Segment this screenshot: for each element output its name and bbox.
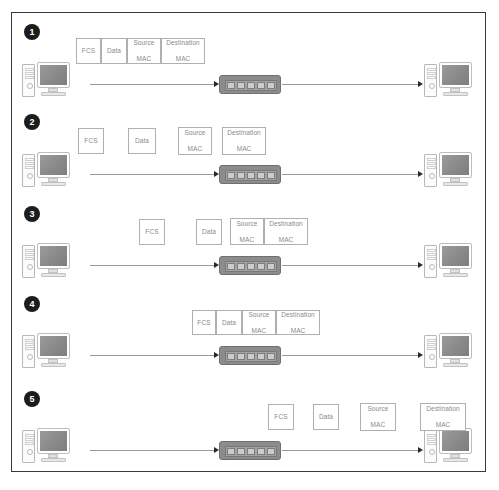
pc-power-button-icon bbox=[429, 354, 435, 360]
wire-switch-to-destination-5 bbox=[282, 450, 420, 451]
pc-screen bbox=[442, 431, 469, 451]
pc-screen bbox=[40, 155, 67, 175]
switch-port bbox=[227, 448, 235, 455]
switch-port bbox=[267, 82, 275, 89]
pc-tower bbox=[424, 430, 437, 463]
frame-field-label: Data bbox=[221, 319, 237, 327]
pc-screen bbox=[442, 65, 469, 85]
frame-field-label-line2: MAC bbox=[132, 55, 155, 63]
arrow-right-icon bbox=[418, 81, 423, 87]
pc-monitor bbox=[37, 62, 70, 88]
switch-port bbox=[227, 353, 235, 360]
frame-field-label-line1: Source bbox=[183, 129, 206, 137]
network-switch-icon-1 bbox=[219, 75, 281, 94]
pc-power-button-icon bbox=[27, 264, 33, 270]
pc-monitor-base bbox=[443, 458, 468, 462]
pc-monitor bbox=[439, 152, 472, 178]
frame-field-destination-mac: DestinationMAC bbox=[264, 218, 308, 245]
network-switch-icon-3 bbox=[219, 256, 281, 275]
frame-field-fcs: FCS bbox=[76, 38, 101, 64]
frame-field-label-line1: Source bbox=[247, 311, 270, 319]
pc-tower bbox=[424, 64, 437, 97]
frame-field-label: Data bbox=[106, 47, 122, 55]
pc-monitor-base bbox=[443, 182, 468, 186]
pc-tower-bay bbox=[25, 434, 34, 437]
pc-tower-bay bbox=[25, 68, 34, 71]
pc-monitor bbox=[439, 243, 472, 269]
pc-tower bbox=[424, 245, 437, 278]
switch-port bbox=[257, 353, 265, 360]
pc-monitor-base bbox=[443, 363, 468, 367]
frame-field-fcs: FCS bbox=[268, 404, 294, 430]
pc-power-button-icon bbox=[429, 264, 435, 270]
pc-monitor bbox=[439, 333, 472, 359]
pc-power-button-icon bbox=[27, 354, 33, 360]
wire-switch-to-destination-1 bbox=[282, 84, 420, 85]
pc-monitor-base bbox=[41, 92, 66, 96]
switch-port bbox=[227, 263, 235, 270]
pc-screen bbox=[442, 246, 469, 266]
frame-field-label-line2: MAC bbox=[280, 327, 316, 335]
pc-monitor-base bbox=[443, 92, 468, 96]
switch-port bbox=[247, 172, 255, 179]
pc-tower-bay bbox=[427, 442, 436, 445]
pc-tower-bay bbox=[427, 72, 436, 75]
frame-field-label-line2: MAC bbox=[226, 145, 262, 153]
frame-field-source-mac: SourceMAC bbox=[178, 127, 212, 155]
frame-field-source-mac: SourceMAC bbox=[242, 310, 276, 335]
pc-screen bbox=[40, 246, 67, 266]
pc-tower-bay bbox=[25, 166, 34, 169]
pc-screen bbox=[40, 65, 67, 85]
network-switch-icon-2 bbox=[219, 165, 281, 184]
pc-tower-bay bbox=[427, 343, 436, 346]
switch-port-panel bbox=[225, 446, 277, 457]
pc-power-button-icon bbox=[27, 449, 33, 455]
frame-field-fcs: FCS bbox=[78, 128, 104, 154]
pc-tower-bay bbox=[25, 438, 34, 441]
pc-monitor-base bbox=[443, 273, 468, 277]
frame-field-label: FCS bbox=[196, 319, 211, 327]
switch-port bbox=[267, 448, 275, 455]
pc-screen bbox=[442, 155, 469, 175]
pc-tower-bay bbox=[25, 442, 34, 445]
frame-field-destination-mac: DestinationMAC bbox=[420, 403, 466, 431]
network-switch-icon-4 bbox=[219, 346, 281, 365]
pc-power-button-icon bbox=[429, 83, 435, 89]
pc-tower-bay bbox=[427, 347, 436, 350]
pc-tower-bay bbox=[427, 339, 436, 342]
wire-source-to-switch-3 bbox=[90, 265, 216, 266]
pc-monitor-base bbox=[41, 273, 66, 277]
frame-field-label-line2: MAC bbox=[235, 236, 258, 244]
frame-field-data: Data bbox=[313, 404, 339, 430]
switch-port bbox=[237, 448, 245, 455]
frame-field-data: Data bbox=[216, 310, 242, 335]
pc-screen bbox=[442, 336, 469, 356]
pc-tower bbox=[424, 335, 437, 368]
pc-tower-bay bbox=[427, 162, 436, 165]
source-computer-icon-4 bbox=[22, 333, 72, 371]
frame-field-label: Data bbox=[134, 137, 150, 145]
wire-switch-to-destination-2 bbox=[282, 174, 420, 175]
pc-monitor bbox=[37, 152, 70, 178]
pc-tower-bay bbox=[427, 68, 436, 71]
step-badge-2: 2 bbox=[24, 114, 40, 130]
pc-power-button-icon bbox=[27, 83, 33, 89]
destination-computer-icon-4 bbox=[424, 333, 474, 371]
wire-source-to-switch-2 bbox=[90, 174, 216, 175]
switch-port bbox=[257, 263, 265, 270]
switch-port bbox=[247, 82, 255, 89]
frame-field-destination-mac: DestinationMAC bbox=[222, 127, 266, 155]
switch-port bbox=[227, 82, 235, 89]
switch-port bbox=[237, 172, 245, 179]
pc-tower-bay bbox=[25, 253, 34, 256]
pc-tower-bay bbox=[427, 158, 436, 161]
pc-tower-bay bbox=[25, 158, 34, 161]
wire-source-to-switch-1 bbox=[90, 84, 216, 85]
frame-field-data: Data bbox=[128, 128, 156, 154]
pc-tower bbox=[424, 154, 437, 187]
frame-field-label-line2: MAC bbox=[247, 327, 270, 335]
switch-port bbox=[227, 172, 235, 179]
frame-field-label: FCS bbox=[83, 137, 98, 145]
frame-field-label-line2: MAC bbox=[366, 421, 389, 429]
frame-field-label-line1: Source bbox=[132, 39, 155, 47]
